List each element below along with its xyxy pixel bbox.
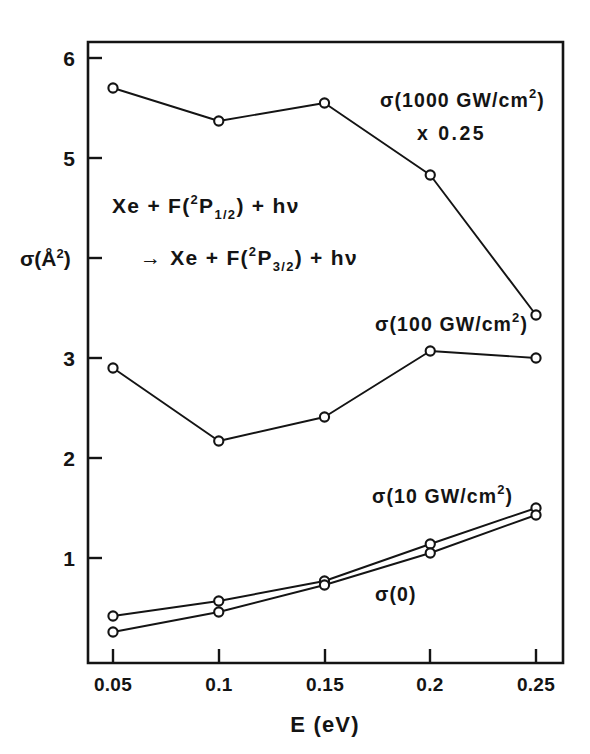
data-point [214, 607, 223, 616]
y-axis-title-sigma: σ( [20, 247, 41, 270]
data-point [426, 170, 435, 179]
y-tick-label-2: 2 [63, 447, 75, 470]
annotation-sigma-10-main: σ(10 GW/cm [372, 485, 497, 507]
annotation-sigma-100: σ(100 GW/cm2) [375, 310, 528, 335]
data-point [426, 548, 435, 557]
data-point [214, 596, 223, 605]
data-point [108, 627, 117, 636]
data-point [426, 346, 435, 355]
reaction-l1-superscript: 2 [191, 192, 200, 207]
plot-frame [88, 42, 563, 663]
y-axis-ticks [88, 58, 102, 558]
data-point [108, 611, 117, 620]
reaction-l2-superscript: 2 [249, 244, 258, 259]
annotation-sigma-1000-close: ) [537, 89, 545, 111]
series-2 [108, 346, 540, 445]
data-point [214, 116, 223, 125]
data-point [426, 539, 435, 548]
series-line [113, 508, 536, 616]
annotation-sigma-100-close: ) [520, 313, 528, 335]
y-axis-title-angstrom: Å [41, 247, 56, 270]
y-axis-title-close: ) [64, 247, 71, 270]
reaction-equation-line2: →Xe + F(2P3/2) + hν [140, 244, 358, 274]
x-tick-label-2: 0.15 [306, 674, 344, 695]
x-axis-title: E (eV) [290, 712, 360, 737]
annotation-sigma-10: σ(10 GW/cm2) [372, 482, 513, 507]
x-tick-label-3: 0.2 [416, 674, 443, 695]
y-axis-title-exponent: 2 [57, 246, 64, 261]
reaction-arrow-icon: → [140, 246, 162, 269]
data-point [108, 363, 117, 372]
annotation-sigma-1000: σ(1000 GW/cm2) [380, 86, 545, 111]
data-point [320, 580, 329, 589]
y-tick-label-5: 5 [63, 147, 75, 170]
data-point [108, 83, 117, 92]
annotation-sigma-10-sup: 2 [497, 482, 505, 497]
data-point [214, 436, 223, 445]
scatter-line-chart: 6 5 3 2 1 σ(Å2) 0.05 0.1 0.15 0.2 0.25 E… [0, 0, 590, 754]
x-tick-label-1: 0.1 [205, 674, 232, 695]
series-line [113, 515, 536, 632]
reaction-l1-term: P [199, 194, 214, 217]
annotation-sigma-0: σ(0) [375, 583, 417, 605]
series-3 [108, 503, 540, 620]
annotation-sigma-1000-sup: 2 [529, 86, 537, 101]
x-tick-label-0: 0.05 [94, 674, 132, 695]
x-tick-label-4: 0.25 [517, 674, 555, 695]
annotation-sigma-10-close: ) [505, 485, 513, 507]
reaction-l2-term: P [257, 246, 272, 269]
annotation-sigma-100-main: σ(100 GW/cm [375, 313, 512, 335]
annotation-sigma-100-sup: 2 [512, 310, 520, 325]
svg-text:σ(Å2): σ(Å2) [20, 246, 71, 270]
reaction-equation-line1: Xe + F(2P1/2) + hν [112, 192, 300, 222]
y-tick-label-6: 6 [63, 47, 75, 70]
reaction-l1-subscript: 1/2 [214, 207, 236, 222]
reaction-l1-reactants: Xe + F( [112, 194, 191, 217]
annotation-sigma-1000-factor: x 0.25 [417, 122, 486, 144]
y-axis-title: σ(Å2) [20, 246, 71, 270]
x-axis-ticks [113, 649, 536, 663]
reaction-l2-tail: ) + hν [295, 246, 358, 269]
reaction-l2-products: Xe + F( [170, 246, 249, 269]
data-point [531, 353, 540, 362]
reaction-l2-subscript: 3/2 [273, 259, 295, 274]
data-point [320, 412, 329, 421]
series-line [113, 351, 536, 441]
series-layer [108, 83, 540, 636]
y-tick-label-3: 3 [63, 347, 75, 370]
figure-container: 6 5 3 2 1 σ(Å2) 0.05 0.1 0.15 0.2 0.25 E… [0, 0, 590, 754]
annotation-sigma-1000-main: σ(1000 GW/cm [380, 89, 529, 111]
y-tick-label-1: 1 [63, 547, 75, 570]
reaction-l1-tail: ) + hν [236, 194, 299, 217]
data-point [531, 310, 540, 319]
data-point [531, 510, 540, 519]
data-point [320, 98, 329, 107]
